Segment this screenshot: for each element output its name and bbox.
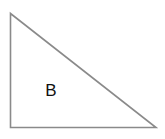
right-triangle-shape [11, 14, 157, 128]
triangle-diagram [0, 0, 165, 139]
triangle-label: B [42, 81, 60, 101]
